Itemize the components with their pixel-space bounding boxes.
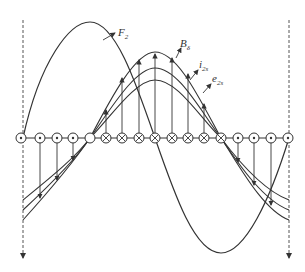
conductor-dot-icon [35,133,45,143]
air-gap-field-diagram: F2 Bδ i2s e2s [0,0,305,272]
f2-label: F2 [103,26,129,41]
conductor-cross-icon [183,133,193,143]
conductor-dot-icon [249,133,259,143]
conductor-dot-icon [68,133,78,143]
svg-text:e2s: e2s [212,72,223,87]
b-field-arrows [40,54,271,205]
conductor-cross-icon [134,133,144,143]
conductor-row [16,133,293,143]
b-delta-label: Bδ [176,37,191,58]
conductor-cross-icon [150,133,160,143]
i2s-label: i2s [190,58,209,80]
svg-text:i2s: i2s [199,58,209,73]
svg-text:F2: F2 [117,26,129,41]
conductor-dot-icon [283,133,293,143]
conductor-empty-icon [85,133,95,143]
conductor-cross-icon [167,133,177,143]
conductor-cross-icon [216,133,226,143]
svg-text:Bδ: Bδ [180,37,191,52]
conductor-dot-icon [16,133,26,143]
conductor-dot-icon [233,133,243,143]
conductor-dot-icon [52,133,62,143]
conductor-cross-icon [199,133,209,143]
conductor-cross-icon [117,133,127,143]
e2s-label: e2s [203,72,223,93]
conductor-dot-icon [266,133,276,143]
conductor-cross-icon [101,133,111,143]
